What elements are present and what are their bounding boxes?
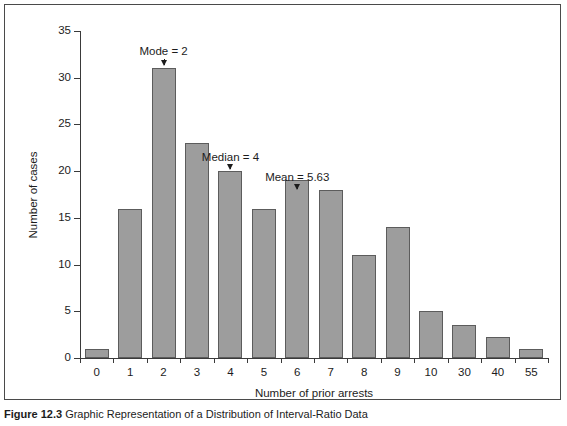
bar [118, 209, 142, 358]
y-tick-label: 20 [58, 165, 71, 177]
y-axis-line [80, 31, 81, 358]
bar [185, 143, 209, 358]
x-tick-label: 40 [491, 367, 504, 379]
y-tick-label: 5 [65, 306, 71, 318]
y-tick-mark [74, 265, 80, 266]
chart-annotation: Mean = 5.63 [297, 185, 298, 189]
bar [452, 325, 476, 358]
x-tick-mark [347, 358, 348, 363]
bar [519, 349, 543, 358]
x-tick-mark [481, 358, 482, 363]
x-tick-label: 0 [94, 367, 100, 379]
bar [319, 190, 343, 358]
x-tick-mark [214, 358, 215, 363]
x-tick-label: 3 [194, 367, 200, 379]
y-tick-label: 30 [58, 72, 71, 84]
x-tick-label: 10 [425, 367, 438, 379]
x-tick-label: 7 [328, 367, 334, 379]
x-tick-mark [448, 358, 449, 363]
x-tick-label: 8 [361, 367, 367, 379]
bar [285, 180, 309, 358]
bar [152, 68, 176, 358]
y-tick-mark [74, 171, 80, 172]
annotation-label: Mean = 5.63 [265, 172, 329, 184]
x-tick-mark [381, 358, 382, 363]
annotation-label: Median = 4 [202, 152, 259, 164]
x-tick-mark [548, 358, 549, 363]
y-tick-label: 35 [58, 25, 71, 37]
y-tick-mark [74, 78, 80, 79]
bar [386, 227, 410, 358]
y-tick-mark [74, 124, 80, 125]
x-tick-mark [113, 358, 114, 363]
y-tick-label: 0 [65, 352, 71, 364]
x-tick-mark [414, 358, 415, 363]
y-axis-title-label: Number of cases [27, 151, 39, 238]
caption-text: Graphic Representation of a Distribution… [65, 408, 368, 420]
x-tick-mark [180, 358, 181, 363]
bar [486, 337, 510, 358]
x-tick-label: 55 [525, 367, 538, 379]
y-tick-mark [74, 311, 80, 312]
bar [85, 349, 109, 358]
x-tick-mark [147, 358, 148, 363]
x-tick-mark [80, 358, 81, 363]
y-tick-label: 15 [58, 212, 71, 224]
x-tick-mark [314, 358, 315, 363]
x-tick-label: 4 [227, 367, 233, 379]
y-tick-label: 10 [58, 259, 71, 271]
y-tick-label: 25 [58, 119, 71, 131]
annotation-label: Mode = 2 [139, 46, 187, 58]
y-axis-title: Number of cases [26, 31, 40, 358]
plot-area: 05101520253035 012345678910304055 Mode =… [80, 31, 548, 358]
x-tick-label: 9 [394, 367, 400, 379]
figure-caption: Figure 12.3 Graphic Representation of a … [4, 408, 561, 420]
bar [252, 209, 276, 358]
y-tick-mark [74, 31, 80, 32]
annotation-arrow-head-icon [227, 164, 233, 170]
annotation-arrow-head-icon [161, 60, 167, 66]
x-tick-label: 2 [160, 367, 166, 379]
x-tick-label: 30 [458, 367, 471, 379]
bar [218, 171, 242, 358]
x-tick-mark [515, 358, 516, 363]
x-tick-label: 1 [127, 367, 133, 379]
annotation-arrow-head-icon [294, 184, 300, 190]
x-axis-title: Number of prior arrests [80, 387, 548, 399]
x-tick-mark [247, 358, 248, 363]
y-tick-mark [74, 218, 80, 219]
x-tick-label: 5 [261, 367, 267, 379]
x-tick-mark [281, 358, 282, 363]
bar [352, 255, 376, 358]
bar [419, 311, 443, 358]
x-tick-label: 6 [294, 367, 300, 379]
chart-annotation: Median = 4 [230, 165, 231, 169]
chart-annotation: Mode = 2 [164, 59, 165, 65]
caption-label: Figure 12.3 [4, 408, 62, 420]
figure-frame: Number of cases 05101520253035 012345678… [4, 4, 561, 400]
